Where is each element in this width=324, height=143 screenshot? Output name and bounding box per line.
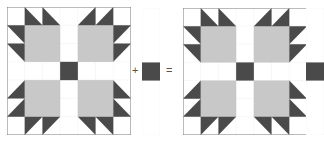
cell [236,44,254,62]
cell [42,62,60,80]
cell [7,7,25,25]
cell [236,99,254,117]
cell [289,62,307,80]
paw-square [254,26,289,62]
cell [60,7,78,25]
cell [183,62,201,80]
cell [236,81,254,99]
cell [113,7,131,25]
cell [272,62,290,80]
cell [183,117,201,135]
appended-strip-svg [306,8,324,135]
cell [201,62,219,80]
center-square [236,62,254,80]
bears-paw-block [7,7,131,135]
cell [218,62,236,80]
paw-square [25,80,60,117]
cell [60,44,78,62]
strip-dark-square [306,62,324,80]
paw-square [201,26,236,62]
bears-paw-block-svg [7,7,131,135]
cell [60,25,78,43]
strip-dark-square [142,62,160,80]
paw-square [25,25,60,62]
cell [7,117,25,135]
cell [113,62,131,80]
plus-sign: + [132,65,138,76]
cell [289,117,307,135]
cell [113,117,131,135]
bears-paw-block-copy-svg [183,8,307,135]
center-square [60,62,78,80]
sashing-strip [142,8,160,135]
paw-square [78,25,113,62]
cell [7,62,25,80]
cell [236,8,254,26]
paw-square [254,81,289,117]
cell [60,117,78,135]
cell [96,62,114,80]
cell [236,117,254,135]
cell [78,62,96,80]
cell [183,8,201,26]
paw-square [78,80,113,117]
equals-sign: = [166,65,172,76]
cell [60,98,78,116]
paw-square [201,81,236,117]
cell [60,80,78,98]
cell [254,62,272,80]
cell [289,8,307,26]
cell [25,62,43,80]
cell [236,26,254,44]
sashing-strip-svg [142,8,160,135]
